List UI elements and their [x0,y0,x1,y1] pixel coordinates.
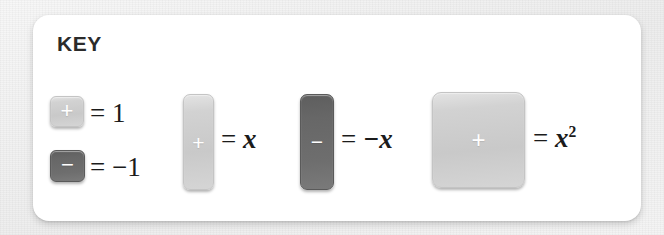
equals-sign: = [533,123,548,153]
legend-value-unit-positive: 1 [112,98,126,128]
plus-icon: + [471,128,485,152]
legend-exponent-x-squared: 2 [568,123,576,140]
legend-value-x-squared: x [555,123,569,153]
key-title: KEY [57,32,102,56]
legend-label-x-negative: = −x [341,126,393,153]
minus-icon: − [311,131,323,152]
key-card: KEY + = 1 − = −1 + = x − = −x + = x2 [33,15,641,221]
legend-label-x-squared: = x2 [533,125,576,152]
tile-x-positive: + [183,94,214,190]
legend-value-x-negative: −x [363,124,393,154]
tile-x-squared: + [432,92,525,188]
legend-label-unit-negative: = −1 [90,154,141,181]
equals-sign: = [90,152,105,182]
legend-label-unit-positive: = 1 [90,100,125,127]
equals-sign: = [90,98,105,128]
tile-unit-positive: + [50,96,84,127]
tile-x-negative: − [300,94,334,190]
minus-icon: − [61,154,74,176]
tile-unit-negative: − [50,150,85,182]
legend-value-unit-negative: −1 [112,152,141,182]
equals-sign: = [221,124,236,154]
legend-value-x-positive: x [243,124,257,154]
equals-sign: = [341,124,356,154]
legend-label-x-positive: = x [221,126,256,153]
plus-icon: + [61,100,74,122]
plus-icon: + [192,132,204,153]
